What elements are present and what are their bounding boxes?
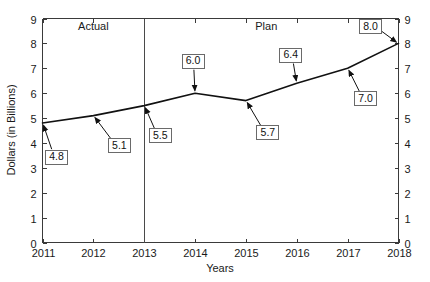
value-label: 7.0 (355, 91, 377, 105)
x-tick-label: 2014 (183, 247, 207, 259)
value-label-leader (349, 70, 359, 91)
value-label-text: 5.1 (112, 139, 127, 151)
value-label: 8.0 (360, 20, 382, 34)
x-tick-label: 2018 (387, 247, 411, 259)
value-label-boxes: 4.85.15.56.05.76.47.08.0 (46, 20, 382, 165)
y-tick-label-right: 7 (405, 63, 411, 75)
value-label-leader (95, 118, 111, 140)
x-tick-label: 2016 (285, 247, 309, 259)
x-tick-label: 2011 (32, 247, 56, 259)
x-tick-label: 2015 (234, 247, 258, 259)
x-axis-title: Years (206, 262, 234, 274)
data-series-line (43, 43, 399, 123)
plot-frame (43, 19, 399, 243)
line-chart: 0123456789 0123456789 201120122013201420… (0, 0, 430, 282)
y-axis-title: Dollars (in Billions) (5, 84, 17, 175)
y-axis-right-ticks: 0123456789 (395, 14, 411, 250)
value-label-leader (247, 103, 260, 126)
value-label: 6.4 (280, 48, 302, 62)
y-tick-label-left: 7 (30, 63, 36, 75)
value-label-text: 6.4 (283, 48, 298, 60)
value-label-text: 5.5 (153, 129, 168, 141)
y-tick-label-left: 1 (30, 213, 36, 225)
y-tick-label-left: 6 (30, 88, 36, 100)
value-label-text: 8.0 (363, 20, 378, 32)
value-label-text: 6.0 (186, 54, 201, 66)
value-label-leader (194, 70, 195, 91)
value-label-leader (381, 31, 396, 42)
y-tick-label-left: 5 (30, 113, 36, 125)
y-tick-label-right: 3 (405, 163, 411, 175)
y-tick-label-right: 6 (405, 88, 411, 100)
x-axis-ticks: 20112012201320142015201620172018 (32, 19, 412, 259)
y-tick-label-left: 9 (30, 14, 36, 26)
x-tick-label: 2017 (336, 247, 360, 259)
x-tick-label: 2013 (132, 247, 156, 259)
y-tick-label-left: 8 (30, 38, 36, 50)
value-label-text: 4.8 (49, 150, 64, 162)
y-tick-label-left: 2 (30, 188, 36, 200)
y-tick-label-right: 9 (405, 14, 411, 26)
chart-container: 0123456789 0123456789 201120122013201420… (0, 0, 430, 282)
value-label: 5.5 (149, 129, 171, 143)
value-label-leader-lines (44, 31, 397, 149)
value-label-text: 7.0 (358, 92, 373, 104)
y-tick-label-right: 2 (405, 188, 411, 200)
plan-region-label: Plan (255, 20, 277, 32)
value-label-leader (44, 125, 52, 149)
value-label: 5.7 (257, 126, 279, 140)
y-axis-left-ticks: 0123456789 (30, 14, 46, 250)
y-tick-label-right: 5 (405, 113, 411, 125)
x-tick-label: 2012 (81, 247, 105, 259)
value-label: 5.1 (108, 139, 130, 153)
value-label-text: 5.7 (261, 126, 276, 138)
value-label: 4.8 (46, 150, 68, 164)
y-tick-label-left: 3 (30, 163, 36, 175)
y-tick-label-left: 4 (30, 138, 36, 150)
y-tick-label-right: 1 (405, 213, 411, 225)
y-tick-label-right: 4 (405, 138, 411, 150)
value-label-leader (145, 108, 154, 128)
y-tick-label-right: 8 (405, 38, 411, 50)
value-label: 6.0 (182, 54, 204, 68)
actual-region-label: Actual (78, 20, 109, 32)
value-label-leader (293, 64, 296, 81)
